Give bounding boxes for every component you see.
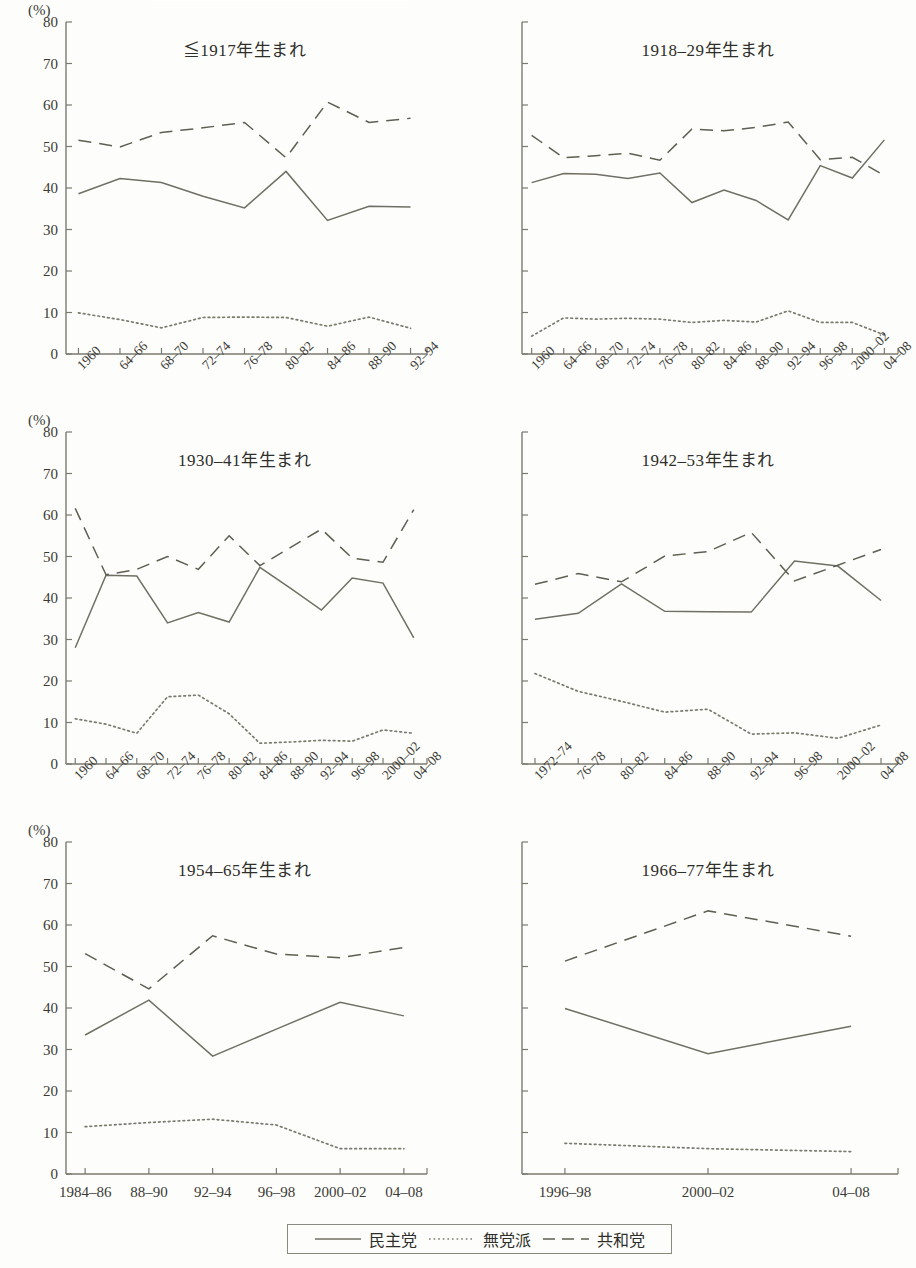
y-axis-tick-label: 80 bbox=[32, 424, 58, 441]
series-line bbox=[565, 1143, 851, 1151]
chart-panel: (%)1954–65年生まれ010203040506070801984–8688… bbox=[18, 842, 423, 1244]
series-line bbox=[535, 561, 881, 619]
x-axis-tick-label: 04–08 bbox=[362, 1184, 446, 1201]
y-axis-tick-label: 10 bbox=[32, 1124, 58, 1141]
series-line bbox=[75, 695, 414, 743]
legend-item-democrat: 民主党 bbox=[315, 1227, 417, 1251]
y-axis-tick-label: 80 bbox=[32, 14, 58, 31]
y-axis-tick-label: 70 bbox=[32, 465, 58, 482]
y-axis-tick-label: 20 bbox=[32, 263, 58, 280]
series-line bbox=[565, 1008, 851, 1053]
chart-panel: 1966–77年生まれ1996–982000–0204–08 bbox=[474, 842, 894, 1244]
y-axis-tick-label: 30 bbox=[32, 221, 58, 238]
legend-swatch-dotted bbox=[429, 1236, 475, 1242]
series-line bbox=[535, 674, 881, 739]
x-axis-tick-label: 04–08 bbox=[809, 1184, 893, 1201]
y-axis-tick-label: 40 bbox=[32, 590, 58, 607]
series-line bbox=[565, 911, 851, 961]
y-axis-tick-label: 60 bbox=[32, 507, 58, 524]
legend-label-republican: 共和党 bbox=[597, 1227, 645, 1251]
series-line bbox=[532, 140, 885, 220]
plot-area bbox=[66, 432, 429, 766]
series-line bbox=[535, 532, 881, 584]
legend-label-democrat: 民主党 bbox=[369, 1227, 417, 1251]
legend-swatch-dashed bbox=[543, 1236, 589, 1242]
plot-area bbox=[66, 842, 429, 1176]
y-axis-tick-label: 10 bbox=[32, 304, 58, 321]
series-line bbox=[75, 567, 414, 648]
legend-item-independent: 無党派 bbox=[429, 1227, 531, 1251]
y-axis-tick-label: 30 bbox=[32, 631, 58, 648]
plot-area bbox=[522, 432, 900, 766]
y-axis-tick-label: 60 bbox=[32, 917, 58, 934]
y-axis-tick-label: 0 bbox=[32, 346, 58, 363]
chart-panel: (%)≦1917年生まれ01020304050607080196064–6668… bbox=[18, 22, 423, 424]
x-axis-tick-label: 1996–98 bbox=[523, 1184, 607, 1201]
y-axis-tick-label: 40 bbox=[32, 1000, 58, 1017]
series-line bbox=[75, 508, 414, 574]
legend-swatch-solid bbox=[315, 1236, 361, 1242]
y-axis-tick-label: 70 bbox=[32, 875, 58, 892]
series-line bbox=[532, 122, 885, 176]
y-axis-tick-label: 50 bbox=[32, 958, 58, 975]
y-axis-tick-label: 20 bbox=[32, 1083, 58, 1100]
y-axis-tick-label: 30 bbox=[32, 1041, 58, 1058]
chart-figure: (%)≦1917年生まれ01020304050607080196064–6668… bbox=[0, 0, 916, 1268]
plot-area bbox=[66, 22, 429, 356]
plot-area bbox=[522, 22, 900, 356]
series-line bbox=[532, 311, 885, 336]
chart-panel: 1918–29年生まれ196064–6668–7072–7476–7880–82… bbox=[474, 22, 894, 424]
y-axis-tick-label: 20 bbox=[32, 673, 58, 690]
series-line bbox=[78, 313, 410, 328]
legend-label-independent: 無党派 bbox=[483, 1227, 531, 1251]
chart-legend: 民主党 無党派 共和党 bbox=[287, 1224, 672, 1254]
series-line bbox=[85, 1000, 404, 1056]
series-line bbox=[85, 936, 404, 989]
y-axis-tick-label: 0 bbox=[32, 1166, 58, 1183]
y-axis-tick-label: 50 bbox=[32, 548, 58, 565]
page-top-artifact bbox=[150, 0, 410, 1]
y-axis-tick-label: 0 bbox=[32, 756, 58, 773]
chart-panel: 1942–53年生まれ1972–7476–7880–8284–8688–9092… bbox=[474, 432, 894, 834]
y-axis-tick-label: 60 bbox=[32, 97, 58, 114]
series-line bbox=[78, 102, 410, 158]
series-line bbox=[85, 1119, 404, 1148]
series-line bbox=[78, 171, 410, 220]
y-axis-tick-label: 10 bbox=[32, 714, 58, 731]
y-axis-tick-label: 70 bbox=[32, 55, 58, 72]
y-axis-tick-label: 50 bbox=[32, 138, 58, 155]
y-axis-tick-label: 80 bbox=[32, 834, 58, 851]
x-axis-tick-label: 2000–02 bbox=[666, 1184, 750, 1201]
legend-item-republican: 共和党 bbox=[543, 1227, 645, 1251]
chart-panel: (%)1930–41年生まれ01020304050607080196064–66… bbox=[18, 432, 423, 834]
y-axis-tick-label: 40 bbox=[32, 180, 58, 197]
plot-area bbox=[522, 842, 900, 1176]
